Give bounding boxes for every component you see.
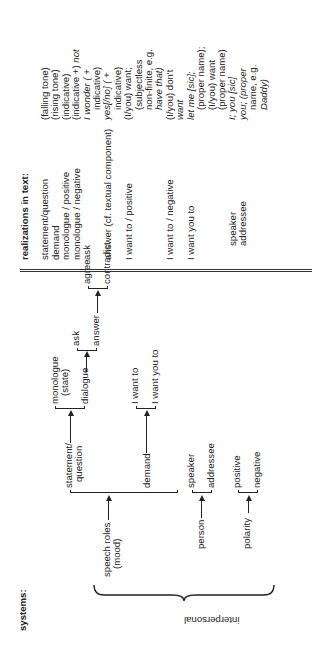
ask-answer-bracket — [77, 348, 97, 351]
speech-roles-arrow-line — [108, 498, 109, 520]
person-arrow-line — [201, 498, 202, 518]
negative-option: negative — [252, 452, 262, 488]
positive-option: positive — [232, 455, 242, 488]
arrow-head-icon — [68, 410, 74, 416]
speech-roles-bracket — [70, 490, 178, 493]
arrow-head-icon — [199, 495, 205, 501]
polarity-bracket — [238, 490, 258, 493]
person-bracket — [192, 490, 212, 493]
i-want-you-to-option: I want you to — [150, 350, 160, 404]
spacer — [144, 129, 154, 260]
value-line: (proper name); — [196, 47, 206, 120]
i-want-to-option: I want to — [130, 368, 140, 404]
realization-row: ask — [82, 129, 92, 260]
dialogue-option: dialogue — [80, 368, 90, 404]
realizations-heading: realizations in text: — [20, 129, 30, 260]
realization-row: answer (cf. textual component) — [103, 129, 113, 260]
polarity-label: polarity — [242, 518, 252, 549]
state-text: (state) — [60, 357, 70, 404]
double-rule-divider — [20, 269, 312, 272]
interpersonal-label: interpersonal — [184, 615, 239, 625]
statement-question-option: statement/ question — [64, 443, 85, 488]
question-text: question — [74, 443, 84, 488]
answer-option: answer — [91, 315, 101, 346]
spacer — [134, 129, 144, 260]
arrow-head-icon — [84, 351, 90, 357]
systems-heading: systems: — [18, 589, 28, 631]
spacer — [196, 129, 206, 260]
spacer — [207, 129, 217, 260]
rotated-page: systems: speech roles (mood) statement/ … — [0, 0, 327, 653]
speech-roles-label: speech roles (mood) — [102, 523, 123, 577]
realization-row: I want you to — [186, 129, 196, 260]
realization-values-column: (falling tone) (rising tone) (indicative… — [40, 47, 269, 120]
arrow-head-icon — [246, 495, 252, 501]
person-label: person — [196, 520, 206, 549]
agree-contradict-bracket — [88, 286, 108, 289]
realization-row: monologue / negative — [72, 129, 82, 260]
interpersonal-brace-icon — [92, 579, 276, 603]
arrow-head-icon — [95, 290, 101, 296]
arrow-head-icon — [144, 410, 150, 416]
mood-text: (mood) — [112, 523, 122, 577]
speaker-option: speaker — [186, 454, 196, 488]
statement-arrow-line — [70, 413, 71, 443]
realization-row: I want to / positive — [124, 129, 134, 260]
value-line: Daddy) — [259, 47, 269, 120]
realizations-column: realizations in text: statement/question… — [20, 129, 248, 260]
ask-option: ask — [71, 331, 81, 346]
demand-option: demand — [142, 453, 152, 488]
monologue-option: monologue (state) — [50, 357, 71, 404]
realization-row: addressee — [238, 129, 248, 260]
monologue-dialogue-bracket — [55, 406, 85, 409]
want-bracket — [136, 406, 156, 409]
demand-arrow-line — [146, 413, 147, 453]
value-line: name, e.g. — [248, 47, 258, 120]
realization-row: I want to / negative — [165, 129, 175, 260]
addressee-option: addressee — [206, 443, 216, 488]
arrow-head-icon — [106, 495, 112, 501]
answer-arrow-line — [97, 293, 98, 313]
